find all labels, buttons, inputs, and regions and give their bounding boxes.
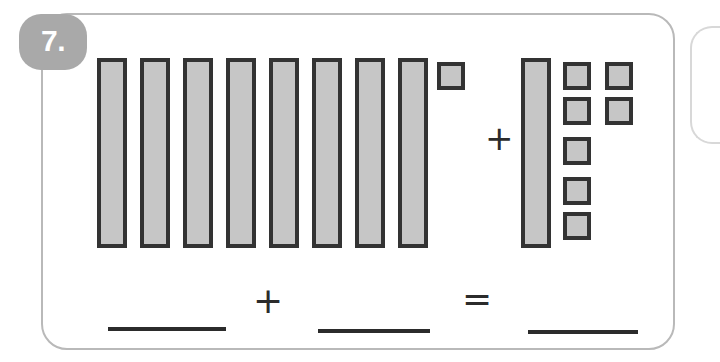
equals-operator-equation: =: [462, 281, 492, 317]
tens-rod: [398, 58, 428, 248]
tens-rod: [269, 58, 299, 248]
unit-cube: [605, 62, 633, 90]
problem-number-label: 7.: [41, 26, 65, 56]
unit-cube: [563, 62, 591, 90]
plus-operator-equation: +: [253, 283, 283, 319]
neighbor-card-edge: [690, 26, 720, 144]
tens-rod: [355, 58, 385, 248]
unit-cube: [563, 177, 591, 205]
problem-number-badge: 7.: [19, 14, 87, 70]
tens-rod: [312, 58, 342, 248]
tens-rod: [97, 58, 127, 248]
answer-blank-sum[interactable]: [528, 330, 638, 334]
tens-rod: [521, 58, 551, 248]
tens-rod: [140, 58, 170, 248]
tens-rod: [226, 58, 256, 248]
answer-blank-second-addend[interactable]: [318, 329, 430, 333]
unit-cube: [563, 212, 591, 240]
plus-operator-blocks: +: [485, 121, 514, 155]
tens-rod: [183, 58, 213, 248]
unit-cube: [563, 97, 591, 125]
unit-cube: [563, 137, 591, 165]
answer-blank-first-addend[interactable]: [108, 327, 226, 331]
unit-cube: [605, 97, 633, 125]
unit-cube: [437, 62, 465, 90]
